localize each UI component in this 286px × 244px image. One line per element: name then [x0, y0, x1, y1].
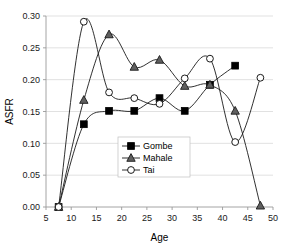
data-point-tai — [257, 74, 264, 81]
data-point-gombe — [80, 121, 87, 128]
x-tick-label: 25 — [142, 213, 152, 223]
x-tick-label: 20 — [117, 213, 127, 223]
y-tick-label: 0.20 — [22, 75, 40, 85]
x-axis-title: Age — [151, 232, 169, 243]
data-point-tai — [232, 139, 239, 146]
data-point-mahale — [80, 96, 88, 104]
legend-entry-gombe[interactable]: Gombe — [122, 141, 173, 151]
data-point-gombe — [131, 107, 138, 114]
legend-label: Gombe — [143, 141, 173, 151]
y-tick-label: 0.30 — [22, 11, 40, 21]
x-tick-label: 40 — [218, 213, 228, 223]
data-point-tai — [80, 18, 87, 25]
x-tick-label: 50 — [268, 213, 278, 223]
data-point-tai — [207, 55, 214, 62]
series-line-tai — [59, 19, 261, 207]
data-point-mahale — [231, 106, 239, 114]
data-point-tai — [55, 204, 62, 211]
x-tick-label: 10 — [66, 213, 76, 223]
data-point-gombe — [232, 62, 239, 69]
x-tick-label: 35 — [192, 213, 202, 223]
y-tick-label: 0.10 — [22, 139, 40, 149]
y-tick-label: 0.05 — [22, 170, 40, 180]
legend-marker-gombe — [128, 143, 135, 150]
data-point-tai — [106, 89, 113, 96]
data-point-gombe — [106, 107, 113, 114]
y-tick-label: 0.25 — [22, 43, 40, 53]
data-point-gombe — [181, 107, 188, 114]
x-tick-label: 5 — [43, 213, 48, 223]
data-point-tai — [156, 100, 163, 107]
data-point-tai — [131, 95, 138, 102]
legend-marker-tai — [128, 167, 135, 174]
data-point-mahale — [181, 82, 189, 90]
x-tick-label: 15 — [91, 213, 101, 223]
y-tick-label: 0.00 — [22, 202, 40, 212]
data-point-tai — [181, 75, 188, 82]
y-tick-label: 0.15 — [22, 107, 40, 117]
legend-label: Mahale — [143, 153, 173, 163]
x-tick-label: 30 — [167, 213, 177, 223]
legend-label: Tai — [143, 165, 155, 175]
y-axis-title: ASFR — [4, 98, 15, 125]
x-tick-label: 45 — [243, 213, 253, 223]
data-point-mahale — [256, 201, 264, 209]
asfr-line-chart: 0.000.050.100.150.200.250.30510152025303… — [0, 0, 286, 244]
chart-figure: 0.000.050.100.150.200.250.30510152025303… — [0, 0, 286, 244]
